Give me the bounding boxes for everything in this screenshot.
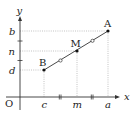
point-b: [42, 68, 45, 71]
segment-equal-mark-ma: [91, 39, 94, 42]
point-b-label: B: [39, 57, 46, 68]
y-axis-arrow-icon: [18, 16, 22, 21]
x-tick-label-c: c: [42, 99, 48, 110]
point-a-label: A: [103, 18, 112, 29]
point-m: [75, 49, 78, 52]
x-axis-label: x: [124, 91, 130, 102]
segment-equal-mark-bm: [59, 59, 62, 62]
projection-guides: [20, 31, 108, 97]
x-axis-arrow-icon: [115, 95, 120, 99]
point-m-label: M: [71, 38, 81, 49]
y-axis-label: y: [16, 5, 23, 16]
point-a: [106, 29, 109, 32]
x-tick-label-m: m: [73, 99, 82, 110]
y-tick-label-d: d: [9, 65, 15, 76]
coordinate-diagram: A M B y x O b n d c m a: [0, 0, 138, 117]
axes: [6, 16, 120, 110]
origin-label: O: [5, 98, 13, 109]
y-tick-label-n: n: [9, 46, 15, 57]
y-tick-label-b: b: [9, 26, 15, 37]
x-tick-label-a: a: [105, 99, 111, 110]
